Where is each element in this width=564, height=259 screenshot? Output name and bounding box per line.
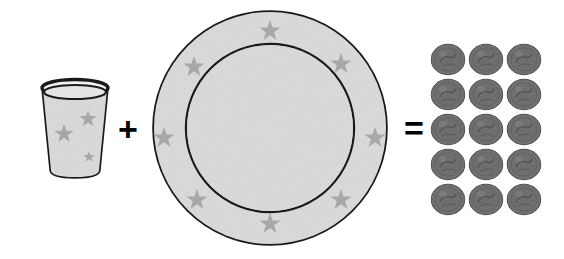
plate-inner-texture [187,45,353,211]
cup-rim-inner [44,85,106,99]
coin [430,77,468,112]
coin [506,182,544,217]
equals-operator-icon: = [404,111,424,145]
coin-grid [430,42,544,217]
coin [506,42,544,77]
coin [506,112,544,147]
coin [506,147,544,182]
coin [430,182,468,217]
coin [468,77,506,112]
coin [468,147,506,182]
cup [42,80,108,178]
coin [506,77,544,112]
cup-body-texture [43,89,107,177]
coin [468,112,506,147]
coin [430,112,468,147]
equation-scene: + = [0,0,564,259]
coin [430,42,468,77]
coin [468,42,506,77]
coin [468,182,506,217]
plus-operator-icon: + [118,112,138,146]
coin [430,147,468,182]
plate [154,12,386,244]
